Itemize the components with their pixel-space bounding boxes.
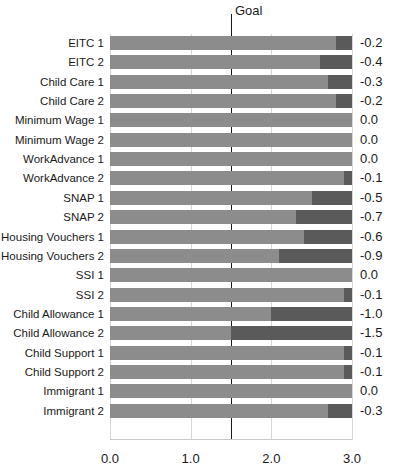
- bar-segment-dark: [344, 365, 352, 379]
- gridline: [352, 34, 353, 440]
- stacked-bar: [110, 404, 352, 418]
- value-label: -1.0: [360, 307, 404, 321]
- bar-segment-light: [110, 133, 352, 147]
- stacked-bar: [110, 249, 352, 263]
- bar-segment-light: [110, 171, 344, 185]
- bar-segment-dark: [231, 326, 352, 340]
- bar-segment-light: [110, 75, 328, 89]
- category-label: Child Care 2: [0, 94, 104, 108]
- category-label: Child Care 1: [0, 75, 104, 89]
- bar-segment-dark: [336, 36, 352, 50]
- bar-segment-dark: [304, 230, 352, 244]
- category-label: Child Allowance 1: [0, 307, 104, 321]
- bar-row: [110, 384, 352, 398]
- stacked-bar: [110, 365, 352, 379]
- category-label: WorkAdvance 2: [0, 171, 104, 185]
- value-label: -0.1: [360, 171, 404, 185]
- axis-baseline: [110, 439, 352, 440]
- value-label: -0.1: [360, 346, 404, 360]
- goal-label: Goal: [231, 4, 262, 18]
- bar-row: [110, 113, 352, 127]
- category-label: WorkAdvance 1: [0, 152, 104, 166]
- bar-row: [110, 288, 352, 302]
- value-label: -0.6: [360, 230, 404, 244]
- category-label: SNAP 1: [0, 191, 104, 205]
- bar-row: [110, 55, 352, 69]
- bar-row: [110, 75, 352, 89]
- bar-segment-light: [110, 268, 352, 282]
- bar-segment-dark: [328, 75, 352, 89]
- bar-segment-dark: [296, 210, 352, 224]
- category-label: SSI 2: [0, 288, 104, 302]
- stacked-bar: [110, 307, 352, 321]
- x-tick-label: 3.0: [343, 451, 361, 466]
- category-label: Minimum Wage 2: [0, 133, 104, 147]
- stacked-bar: [110, 55, 352, 69]
- stacked-bar: [110, 346, 352, 360]
- bar-segment-light: [110, 55, 320, 69]
- bar-segment-light: [110, 307, 271, 321]
- x-tick-label: 1.0: [182, 451, 200, 466]
- stacked-bar: [110, 230, 352, 244]
- bar-segment-light: [110, 36, 336, 50]
- bar-segment-light: [110, 384, 352, 398]
- value-label: -0.7: [360, 210, 404, 224]
- bar-row: [110, 152, 352, 166]
- bar-row: [110, 36, 352, 50]
- category-label: Child Allowance 2: [0, 326, 104, 340]
- category-label: Immigrant 2: [0, 404, 104, 418]
- stacked-bar: [110, 36, 352, 50]
- bar-row: [110, 346, 352, 360]
- bar-segment-light: [110, 94, 336, 108]
- category-label: Child Support 2: [0, 365, 104, 379]
- category-label: Child Support 1: [0, 346, 104, 360]
- value-label: -0.1: [360, 365, 404, 379]
- category-label: Housing Vouchers 1: [0, 230, 104, 244]
- stacked-bar: [110, 210, 352, 224]
- category-label: Minimum Wage 1: [0, 113, 104, 127]
- value-label: 0.0: [360, 113, 404, 127]
- bar-segment-dark: [271, 307, 352, 321]
- bar-segment-dark: [320, 55, 352, 69]
- stacked-bar: [110, 75, 352, 89]
- stacked-bar: [110, 171, 352, 185]
- bar-row: [110, 171, 352, 185]
- bar-row: [110, 404, 352, 418]
- value-label: -0.3: [360, 404, 404, 418]
- value-label: -0.4: [360, 55, 404, 69]
- bar-row: [110, 365, 352, 379]
- bar-row: [110, 268, 352, 282]
- bar-segment-light: [110, 113, 352, 127]
- x-tick-label: 2.0: [262, 451, 280, 466]
- value-label: -0.5: [360, 191, 404, 205]
- bar-segment-light: [110, 346, 344, 360]
- value-label: -0.1: [360, 288, 404, 302]
- value-label: -0.2: [360, 36, 404, 50]
- stacked-bar: [110, 113, 352, 127]
- x-tick-label: 0.0: [101, 451, 119, 466]
- bar-segment-dark: [279, 249, 352, 263]
- bar-segment-light: [110, 365, 344, 379]
- stacked-bar: [110, 191, 352, 205]
- bar-row: [110, 230, 352, 244]
- bar-row: [110, 191, 352, 205]
- value-label: 0.0: [360, 152, 404, 166]
- value-label: -0.3: [360, 75, 404, 89]
- bar-segment-dark: [312, 191, 352, 205]
- bar-row: [110, 133, 352, 147]
- bar-segment-light: [110, 288, 344, 302]
- stacked-bar: [110, 326, 352, 340]
- bar-chart: Goal EITC 1EITC 2Child Care 1Child Care …: [0, 0, 406, 474]
- bar-segment-light: [110, 326, 231, 340]
- value-label: 0.0: [360, 268, 404, 282]
- value-label: -0.2: [360, 94, 404, 108]
- value-label: 0.0: [360, 384, 404, 398]
- bar-segment-dark: [344, 171, 352, 185]
- value-label: -0.9: [360, 249, 404, 263]
- category-label: SNAP 2: [0, 210, 104, 224]
- category-label: SSI 1: [0, 268, 104, 282]
- bar-row: [110, 249, 352, 263]
- stacked-bar: [110, 384, 352, 398]
- stacked-bar: [110, 288, 352, 302]
- category-label: EITC 1: [0, 36, 104, 50]
